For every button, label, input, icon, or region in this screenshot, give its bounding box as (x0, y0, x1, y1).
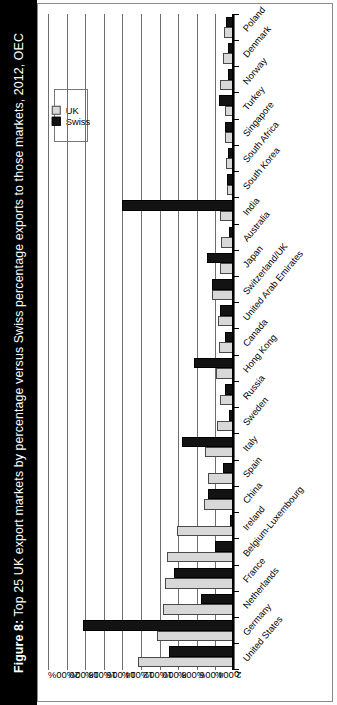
bar-swiss (207, 252, 234, 262)
value-axis-baseline (232, 14, 234, 670)
bar-group: Belgium-Luxembourg (48, 538, 234, 564)
bar-uk (205, 447, 234, 457)
bar-swiss (83, 620, 234, 630)
bar-group: India (48, 197, 234, 223)
bars (48, 460, 234, 486)
bar-group: Ireland (48, 512, 234, 538)
category-tick (234, 118, 239, 119)
category-tick (234, 92, 239, 93)
category-tick (234, 66, 239, 67)
bar-group: Denmark (48, 40, 234, 66)
category-label: Norway (241, 55, 269, 86)
bars (48, 171, 234, 197)
bar-swiss (194, 357, 234, 367)
chart-rotor: UK Swiss 20.00%18.00%16.00%14.00%12.00%1… (40, 8, 330, 698)
category-tick (234, 407, 239, 408)
bar-group: China (48, 486, 234, 512)
bar-group: United States (48, 643, 234, 669)
bars (48, 250, 234, 276)
category-label: India (241, 195, 262, 217)
category-tick (234, 302, 239, 303)
bars (48, 302, 234, 328)
figure-caption-band: Figure 8: Top 25 UK export markets by pe… (0, 0, 37, 705)
category-tick (234, 39, 239, 40)
category-label: Italy (241, 433, 260, 452)
bar-uk (167, 551, 234, 561)
bar-group: France (48, 565, 234, 591)
bar-swiss (174, 567, 234, 577)
bar-swiss (122, 200, 234, 210)
bar-group: Sweden (48, 407, 234, 433)
category-tick (234, 144, 239, 145)
bar-swiss (201, 593, 234, 603)
bar-swiss (212, 279, 234, 289)
bar-uk (138, 656, 234, 666)
chart-panel: UK Swiss 20.00%18.00%16.00%14.00%12.00%1… (37, 3, 333, 702)
category-tick (234, 564, 239, 565)
category-tick (234, 538, 239, 539)
bar-uk (163, 604, 234, 614)
bar-group: Singapore (48, 119, 234, 145)
bars (48, 433, 234, 459)
bar-group: Canada (48, 328, 234, 354)
bar-group: Spain (48, 460, 234, 486)
bars (48, 92, 234, 118)
bar-uk (157, 630, 234, 640)
bar-uk (165, 578, 234, 588)
bars (48, 355, 234, 381)
category-tick (234, 617, 239, 618)
bars (48, 145, 234, 171)
bar-uk (216, 368, 234, 378)
bars (48, 565, 234, 591)
bars (48, 381, 234, 407)
bar-group: Germany (48, 617, 234, 643)
bar-group: Australia (48, 224, 234, 250)
figure-caption-text: Top 25 UK export markets by percentage v… (11, 32, 25, 616)
category-tick (234, 459, 239, 460)
category-tick (234, 197, 239, 198)
bars (48, 224, 234, 250)
bar-group: Japan (48, 250, 234, 276)
bars (48, 197, 234, 223)
bars (48, 40, 234, 66)
category-tick (234, 249, 239, 250)
bar-group: Hong Kong (48, 355, 234, 381)
bar-group: Switzerland/UK (48, 276, 234, 302)
bar-group: Norway (48, 66, 234, 92)
bar-group: Netherlands (48, 591, 234, 617)
bar-group: United Arab Emirates (48, 302, 234, 328)
bars (48, 14, 234, 40)
gridline (234, 14, 235, 670)
bars (48, 486, 234, 512)
bar-columns: United StatesGermanyNetherlandsFranceBel… (48, 14, 234, 670)
bar-swiss (215, 541, 234, 551)
bar-group: Turkey (48, 92, 234, 118)
bar-swiss (182, 436, 234, 446)
category-tick (234, 328, 239, 329)
plot-area: 20.00%18.00%16.00%14.00%12.00%10.00%8.00… (48, 14, 234, 670)
y-axis-tick-label: 0 (234, 669, 239, 680)
category-label: United States (241, 614, 285, 663)
category-tick (234, 643, 239, 644)
category-tick (234, 171, 239, 172)
category-label: China (241, 480, 264, 505)
bar-swiss (208, 489, 234, 499)
bars (48, 276, 234, 302)
category-tick (234, 223, 239, 224)
category-label: Spain (241, 455, 264, 480)
category-tick (234, 512, 239, 513)
bar-uk (177, 525, 234, 535)
bar-uk (204, 499, 234, 509)
bars (48, 328, 234, 354)
category-tick (234, 275, 239, 276)
category-tick (234, 590, 239, 591)
bar-uk (212, 289, 234, 299)
bar-group: Poland (48, 14, 234, 40)
bars (48, 538, 234, 564)
bars (48, 407, 234, 433)
bar-group: South Korea (48, 171, 234, 197)
bar-group: Russia (48, 381, 234, 407)
bars (48, 617, 234, 643)
category-tick (234, 13, 239, 14)
category-tick (234, 669, 239, 670)
